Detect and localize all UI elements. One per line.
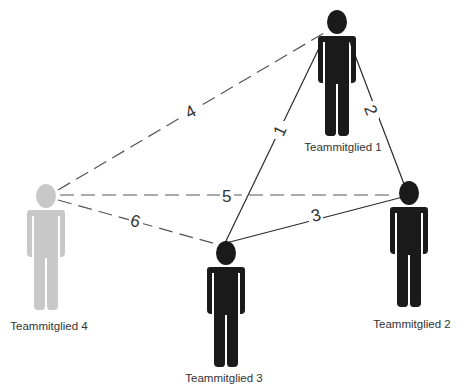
member-tm3: Teammitglied 3: [185, 241, 262, 384]
person-icon: [207, 241, 245, 367]
person-icon: [27, 184, 65, 310]
member-tm4: Teammitglied 4: [10, 184, 88, 332]
member-label: Teammitglied 4: [10, 320, 88, 332]
edge-label-5: 5: [222, 187, 231, 206]
member-label: Teammitglied 3: [185, 372, 262, 384]
person-icon: [390, 181, 428, 307]
member-tm2: Teammitglied 2: [373, 181, 450, 330]
member-tm1: Teammitglied 1: [304, 10, 381, 153]
member-label: Teammitglied 2: [373, 318, 450, 330]
team-communication-diagram: 4 5 6 1 2 3 Teammitglied 1 Teammitglied …: [0, 0, 462, 389]
person-icon: [318, 10, 356, 136]
member-label: Teammitglied 1: [304, 141, 381, 153]
